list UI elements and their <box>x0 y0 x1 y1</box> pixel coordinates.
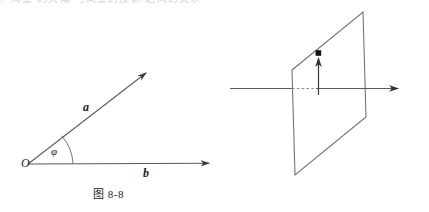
angle-phi-label: φ <box>51 146 57 157</box>
vector-b-line <box>28 163 209 164</box>
point-a-marker <box>316 50 322 56</box>
figure-8-9-drawing <box>230 0 429 212</box>
plane-alpha-parallelogram <box>292 12 366 175</box>
figure-8-8-drawing <box>0 0 230 212</box>
figure-8-8-caption: 图 8-8 <box>93 185 124 201</box>
figure-8-9: α A A' u 图 8-9 <box>230 0 429 212</box>
vector-a-label: a <box>83 101 89 113</box>
vector-b-label: b <box>143 167 149 179</box>
figure-page: 。向量 的夹角 与向量的投影 之间的关系 a b O φ 图 8-8 <box>0 0 429 212</box>
origin-label: O <box>21 157 30 169</box>
vector-a-line <box>28 73 146 164</box>
figure-8-8: a b O φ 图 8-8 <box>0 0 230 212</box>
angle-phi-arc <box>62 136 73 164</box>
